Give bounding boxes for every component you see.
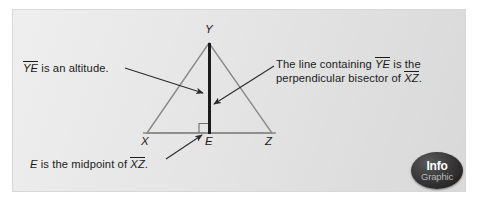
annotation-altitude-text: is an altitude.	[38, 62, 109, 74]
leader-line-midpoint	[166, 135, 202, 159]
annotation-altitude: YE is an altitude.	[23, 61, 109, 75]
vertex-label-z: Z	[265, 135, 272, 147]
annotation-pb-text-part3: perpendicular bisector of	[276, 72, 404, 84]
annotation-midpoint-period: .	[145, 158, 148, 170]
segment-notation-ye: YE	[23, 61, 38, 74]
annotation-pb-text-part1: The line containing	[276, 58, 375, 70]
segment-notation-ye-2: YE	[375, 57, 390, 70]
right-angle-marker	[199, 124, 208, 134]
vertex-label-x: X	[141, 135, 149, 147]
point-label-e: E	[30, 158, 38, 170]
leader-line-perpendicular-bisector	[214, 66, 274, 104]
segment-notation-xz: XZ	[404, 71, 419, 84]
annotation-pb-text-period: .	[419, 72, 422, 84]
badge-subtitle: Graphic	[421, 172, 453, 182]
vertex-label-y: Y	[205, 23, 213, 35]
badge-title: Info	[426, 160, 447, 172]
leader-line-altitude	[125, 68, 203, 93]
segment-notation-xz-2: XZ	[130, 157, 145, 170]
annotation-perpendicular-bisector: The line containing YE is the perpendicu…	[276, 57, 456, 85]
annotation-midpoint: E is the midpoint of XZ.	[30, 157, 148, 171]
info-graphic-badge: Info Graphic	[411, 152, 463, 189]
annotation-pb-text-part2: is the	[390, 58, 421, 70]
annotation-midpoint-text: is the midpoint of	[38, 158, 131, 170]
infographic-figure: Y X E Z YE is an altitude. The line cont…	[0, 0, 477, 201]
vertex-label-e: E	[205, 135, 213, 147]
